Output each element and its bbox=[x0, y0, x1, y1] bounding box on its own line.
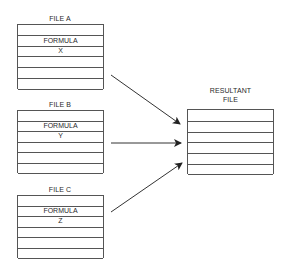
arrow-a-to-resultant bbox=[111, 75, 180, 124]
arrow-c-to-resultant bbox=[111, 163, 182, 212]
arrows-layer bbox=[0, 0, 286, 276]
